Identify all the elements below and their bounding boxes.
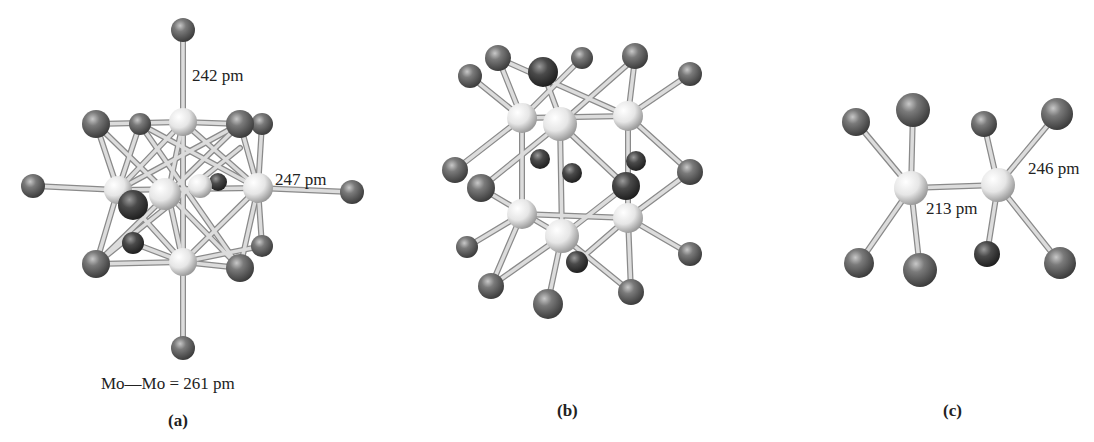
ligand-atom — [456, 236, 478, 258]
ligand-atom — [903, 253, 937, 287]
ligand-atom — [896, 93, 930, 127]
ligand-atom — [340, 180, 364, 204]
ligand-atom — [678, 62, 702, 86]
metal-atom — [507, 199, 537, 229]
ligand-atom — [251, 235, 273, 257]
ligand-atom — [618, 279, 644, 305]
ligand-atom — [533, 289, 563, 319]
ligand-atom — [171, 336, 195, 360]
ligand-atom — [251, 113, 273, 135]
panel-c-caption: (c) — [943, 401, 962, 421]
ligand-atom — [442, 157, 468, 183]
metal-atom — [543, 107, 577, 141]
structure-b — [442, 43, 703, 319]
structure-c — [842, 93, 1076, 287]
ligand-atom — [677, 159, 703, 185]
ligand-atom — [122, 232, 144, 254]
ligand-atom — [678, 242, 702, 266]
ligand-atom — [566, 251, 588, 273]
ligand-atom — [571, 47, 593, 69]
metal-atom — [149, 178, 181, 210]
ligand-atom — [118, 190, 148, 220]
ligand-atom — [844, 248, 874, 278]
ligand-atom — [129, 113, 151, 135]
atoms-c — [842, 93, 1076, 287]
ligand-atom — [562, 163, 582, 183]
equatorial-bond-length-label: 247 pm — [275, 170, 326, 190]
metal-atom — [613, 101, 643, 131]
ligand-atom — [626, 151, 646, 171]
metal-atom — [507, 103, 537, 133]
metal-atom — [613, 203, 643, 233]
ligand-atom — [1041, 98, 1073, 130]
axial-bond-length-label: 242 pm — [192, 66, 243, 86]
ligand-atom — [612, 172, 640, 200]
ligand-atom — [226, 110, 254, 138]
metal-atom — [894, 171, 928, 205]
ligand-atom — [226, 254, 254, 282]
metal-metal-distance-label: Mo—Mo = 261 pm — [101, 374, 235, 394]
metal-atom — [243, 173, 273, 203]
ligand-atom — [467, 174, 495, 202]
panel-a-caption: (a) — [168, 411, 188, 431]
metal-metal-bond-length-label: 213 pm — [926, 199, 977, 219]
metal-atom — [169, 248, 197, 276]
panel-b-caption: (b) — [557, 401, 578, 421]
ligand-atom — [530, 149, 550, 169]
ligand-atom — [1044, 247, 1076, 279]
bonds-c — [856, 110, 1060, 270]
ligand-atom — [171, 18, 195, 42]
ligand-atom — [528, 57, 558, 87]
ligand-atom — [974, 241, 1000, 267]
metal-atom — [188, 174, 212, 198]
ligand-atom — [458, 64, 482, 88]
ligand-atom — [82, 110, 110, 138]
metal-atom — [545, 219, 579, 253]
ligand-atom — [82, 250, 110, 278]
ligand-atom — [478, 273, 504, 299]
ligand-atom — [622, 43, 648, 69]
ligand-atom — [971, 111, 997, 137]
metal-atom — [981, 168, 1015, 202]
ligand-atom — [842, 108, 870, 136]
ligand-atom — [21, 174, 45, 198]
metal-atom — [169, 108, 197, 136]
metal-ligand-bond-length-label: 246 pm — [1028, 159, 1079, 179]
ligand-atom — [485, 45, 511, 71]
